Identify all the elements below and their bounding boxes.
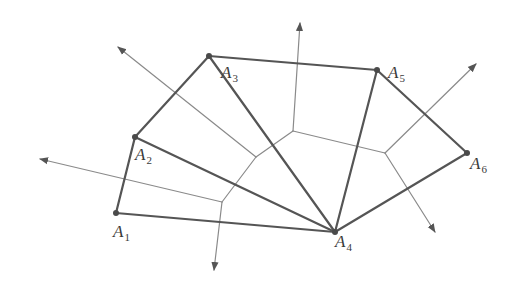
- vertex-dot-a3: [206, 53, 212, 59]
- triangulation-edges: [116, 56, 467, 232]
- delaunay-voronoi-figure: A1 A2 A3 A4 A5 A6: [0, 0, 510, 293]
- point-label-a1: A1: [113, 223, 130, 243]
- point-label-a4: A4: [335, 233, 352, 253]
- vertex-dot-a5: [374, 67, 380, 73]
- triangulation-edge: [335, 70, 377, 232]
- triangulation-edge: [335, 153, 467, 232]
- point-label-a3: A3: [221, 64, 238, 84]
- triangulation-edge: [116, 137, 135, 213]
- voronoi-edge: [293, 131, 385, 153]
- vertex-dots: [113, 53, 470, 235]
- triangulation-edge: [135, 56, 209, 137]
- vertex-dot-a1: [113, 210, 119, 216]
- voronoi-edge: [256, 131, 293, 157]
- voronoi-ray-arrow: [385, 153, 435, 232]
- point-label-a6: A6: [470, 155, 487, 175]
- diagram-canvas: [0, 0, 510, 293]
- point-label-a2: A2: [135, 146, 152, 166]
- voronoi-edge: [222, 157, 256, 202]
- voronoi-ray-arrow: [293, 23, 300, 131]
- vertex-dot-a2: [132, 134, 138, 140]
- point-label-a5: A5: [388, 64, 405, 84]
- voronoi-edges: [222, 131, 385, 202]
- voronoi-ray-arrow: [214, 202, 222, 270]
